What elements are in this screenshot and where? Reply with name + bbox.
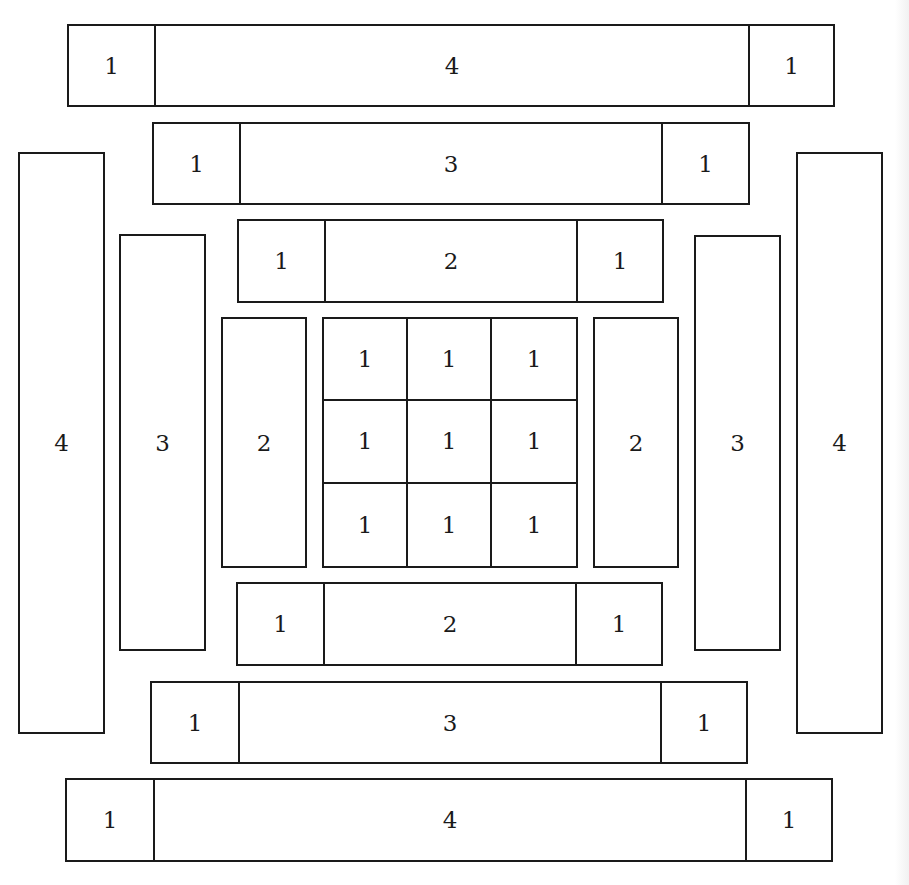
cap-left: 1 <box>154 124 239 203</box>
cap-left: 1 <box>67 780 153 860</box>
cell-label: 1 <box>527 346 542 372</box>
cap-label: 1 <box>697 710 712 736</box>
grid-cell: 1 <box>324 484 408 566</box>
bar-top-3: 1 3 1 <box>152 122 750 205</box>
cell-label: 1 <box>442 512 457 538</box>
cap-label: 1 <box>274 248 289 274</box>
center-grid: 1 1 1 1 1 1 1 1 1 <box>322 317 578 568</box>
cap-left: 1 <box>238 584 323 664</box>
bar-left-2: 2 <box>221 317 307 568</box>
bar-bottom-4: 1 4 1 <box>65 778 833 862</box>
cap-right: 1 <box>745 780 831 860</box>
grid-cell: 1 <box>324 319 408 401</box>
cap-left: 1 <box>69 26 154 105</box>
cap-left: 1 <box>152 683 238 762</box>
grid-cell: 1 <box>492 484 576 566</box>
bar-body: 4 <box>798 154 881 732</box>
cap-label: 1 <box>613 248 628 274</box>
cap-label: 1 <box>189 151 204 177</box>
cell-label: 1 <box>442 428 457 454</box>
bar-label: 2 <box>257 430 272 456</box>
bar-body: 4 <box>154 26 748 105</box>
cap-right: 1 <box>576 221 662 301</box>
bar-label: 2 <box>443 611 458 637</box>
grid-cell: 1 <box>324 401 408 483</box>
cap-right: 1 <box>661 124 748 203</box>
bar-bottom-2: 1 2 1 <box>236 582 663 666</box>
bar-right-2: 2 <box>593 317 679 568</box>
cap-label: 1 <box>188 710 203 736</box>
grid-cell: 1 <box>408 319 492 401</box>
bar-label: 4 <box>832 430 847 456</box>
bar-body: 3 <box>121 236 204 649</box>
cap-label: 1 <box>103 807 118 833</box>
cap-label: 1 <box>273 611 288 637</box>
grid-cell: 1 <box>492 401 576 483</box>
cap-label: 1 <box>784 53 799 79</box>
bar-top-2: 1 2 1 <box>237 219 664 303</box>
grid-cell: 1 <box>408 401 492 483</box>
cap-label: 1 <box>782 807 797 833</box>
cap-right: 1 <box>575 584 661 664</box>
bar-label: 2 <box>444 248 459 274</box>
bar-body: 3 <box>238 683 660 762</box>
bar-right-3: 3 <box>694 235 781 651</box>
page-edge-shadow <box>895 0 909 885</box>
cell-label: 1 <box>527 428 542 454</box>
cap-label: 1 <box>698 151 713 177</box>
bar-body: 4 <box>153 780 745 860</box>
grid-cell: 1 <box>408 484 492 566</box>
bar-bottom-3: 1 3 1 <box>150 681 748 764</box>
bar-label: 4 <box>443 807 458 833</box>
cell-label: 1 <box>442 346 457 372</box>
bar-label: 3 <box>443 710 458 736</box>
bar-label: 2 <box>629 430 644 456</box>
cell-label: 1 <box>358 428 373 454</box>
bar-body: 2 <box>223 319 305 566</box>
cell-label: 1 <box>358 512 373 538</box>
cap-right: 1 <box>660 683 746 762</box>
bar-label: 3 <box>155 430 170 456</box>
cap-label: 1 <box>104 53 119 79</box>
bar-body: 2 <box>323 584 575 664</box>
grid-cell: 1 <box>492 319 576 401</box>
bar-body: 3 <box>239 124 661 203</box>
bar-label: 4 <box>445 53 460 79</box>
bar-label: 3 <box>730 430 745 456</box>
cap-label: 1 <box>612 611 627 637</box>
bar-body: 3 <box>696 237 779 649</box>
cell-label: 1 <box>358 346 373 372</box>
bar-right-4: 4 <box>796 152 883 734</box>
cap-left: 1 <box>239 221 324 301</box>
bar-left-3: 3 <box>119 234 206 651</box>
cell-label: 1 <box>527 512 542 538</box>
bar-body: 4 <box>20 154 103 732</box>
bar-left-4: 4 <box>18 152 105 734</box>
bar-top-4: 1 4 1 <box>67 24 835 107</box>
bar-label: 4 <box>54 430 69 456</box>
cap-right: 1 <box>748 26 833 105</box>
bar-body: 2 <box>324 221 576 301</box>
bar-body: 2 <box>595 319 677 566</box>
bar-label: 3 <box>444 151 459 177</box>
